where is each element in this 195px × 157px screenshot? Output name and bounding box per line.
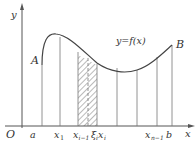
y-axis — [20, 3, 24, 128]
tick-xi: x i — [98, 129, 106, 141]
tick-xi-minus-1: x i−1 — [73, 129, 89, 141]
shaded-strip — [78, 55, 97, 126]
curve-label: y=f(x) — [115, 35, 146, 46]
tick-a: a — [30, 129, 36, 140]
origin-label: O — [6, 128, 15, 141]
svg-text:1: 1 — [60, 134, 64, 142]
svg-text:n−1: n−1 — [151, 134, 164, 141]
svg-text:i: i — [104, 134, 106, 141]
svg-text:i−1: i−1 — [79, 134, 90, 141]
y-axis-label: y — [10, 9, 17, 20]
curve-f — [42, 34, 172, 72]
tick-x1: x 1 — [54, 129, 64, 142]
point-a-label: A — [30, 54, 39, 67]
tick-b: b — [166, 129, 172, 140]
tick-xn-minus-1: x n−1 — [145, 129, 164, 141]
x-axis-label: x — [185, 128, 191, 139]
point-b-label: B — [175, 38, 184, 51]
riemann-sum-figure: y x O A B y=f(x) a x 1 x i−1 ξ i x i x n… — [0, 0, 195, 157]
tick-xi-point: ξ i — [91, 129, 98, 141]
partition-lines — [42, 37, 172, 126]
x-axis — [5, 124, 195, 128]
